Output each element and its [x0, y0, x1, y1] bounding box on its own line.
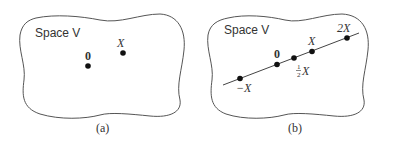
x-label-a: X: [116, 36, 125, 50]
x-point-b: [309, 49, 315, 55]
caption-a: (a): [96, 121, 109, 135]
half-x-var: X: [301, 64, 310, 78]
x-label-b: X: [307, 34, 316, 48]
caption-b: (b): [288, 121, 302, 135]
panel-b: Space V −X 0 1 2 X X 2X (b): [208, 14, 369, 135]
half-x-numerator: 1: [297, 63, 301, 71]
scalar-multiple-line: [223, 33, 359, 85]
origin-label-a: 0: [85, 49, 91, 63]
origin-point-a: [85, 63, 91, 69]
two-x-label: 2X: [337, 21, 351, 35]
space-label-a: Space V: [35, 26, 80, 40]
half-x-point: [291, 55, 297, 61]
vector-space-diagram: Space V 0 X (a) Space V −X 0 1 2 X X 2X …: [0, 0, 393, 141]
half-x-label: 1 2 X: [296, 63, 310, 79]
x-point-a: [120, 50, 126, 56]
panel-a: Space V 0 X (a): [20, 14, 185, 135]
two-x-point: [344, 35, 350, 41]
origin-label-b: 0: [274, 47, 280, 61]
space-label-b: Space V: [224, 23, 269, 37]
half-x-denominator: 2: [297, 71, 301, 79]
neg-x-label: −X: [236, 81, 252, 95]
origin-point-b: [274, 62, 280, 68]
